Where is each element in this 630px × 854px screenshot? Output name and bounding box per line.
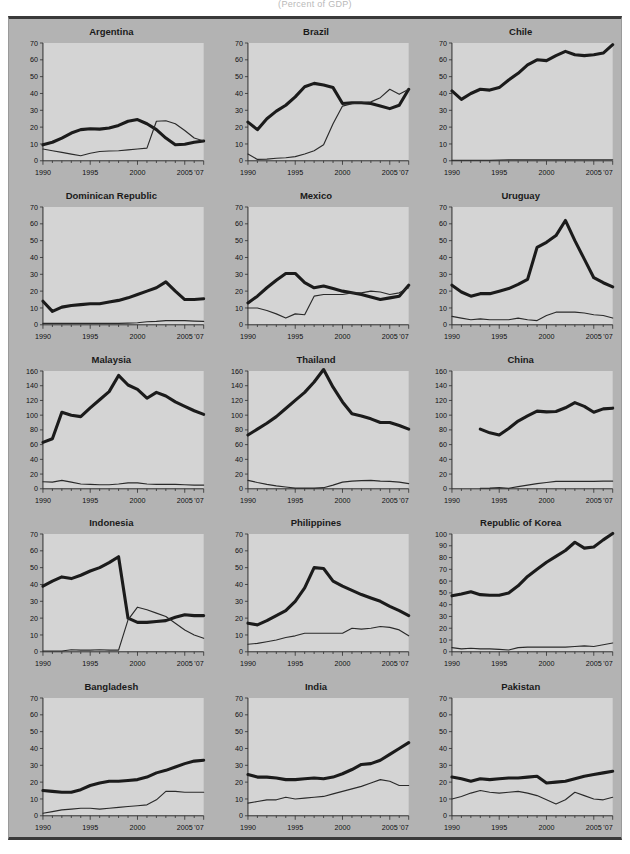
- y-tick-label: 60: [30, 711, 38, 719]
- panel-title: Thailand: [296, 353, 335, 367]
- y-tick-label: 0: [239, 649, 243, 657]
- x-tick-label: 2000: [539, 496, 555, 504]
- y-tick-label: 60: [30, 220, 38, 228]
- plot-area: 0102030405060701990199520002005'07: [418, 203, 623, 351]
- y-tick-label: 70: [30, 695, 38, 703]
- y-tick-label: 70: [439, 40, 447, 48]
- y-tick-label: 50: [30, 237, 38, 245]
- plot-area: 0102030405060701990199520002005'07: [214, 530, 419, 678]
- plot-area: 0102030405060701990199520002005'07: [9, 39, 214, 187]
- x-tick-label: 2005: [586, 824, 602, 832]
- y-tick-label: 0: [239, 157, 243, 165]
- y-tick-label: 100: [231, 411, 243, 419]
- plot-area: 0102030405060701990199520002005'07: [418, 39, 623, 187]
- x-tick-label: '07: [604, 824, 613, 832]
- x-tick-label: 2005: [381, 660, 397, 668]
- x-tick-label: 1990: [35, 660, 51, 668]
- panel-title: Brazil: [303, 25, 329, 39]
- y-tick-label: 0: [34, 485, 38, 493]
- y-tick-label: 80: [439, 554, 447, 562]
- figure-suptitle: (Percent of GDP): [0, 0, 630, 10]
- panel-title: Dominican Republic: [66, 189, 157, 203]
- y-tick-label: 10: [235, 141, 243, 149]
- y-tick-label: 140: [26, 382, 38, 390]
- y-tick-label: 60: [439, 56, 447, 64]
- plot-area: 0102030405060701990199520002005'07: [214, 203, 419, 351]
- figure-root: (Percent of GDP) Argentina01020304050607…: [0, 0, 630, 854]
- y-tick-label: 20: [439, 124, 447, 132]
- x-tick-label: 1995: [82, 169, 98, 177]
- x-tick-label: '07: [194, 333, 203, 341]
- y-tick-label: 0: [34, 321, 38, 329]
- y-tick-label: 50: [30, 728, 38, 736]
- y-tick-label: 0: [34, 649, 38, 657]
- y-tick-label: 10: [439, 141, 447, 149]
- plot-area: 0102030405060701990199520002005'07: [214, 39, 419, 187]
- x-tick-label: 1990: [444, 169, 460, 177]
- x-tick-label: '07: [399, 169, 408, 177]
- x-tick-label: 2000: [539, 824, 555, 832]
- plot-area: 01020304050607080901001990199520002005'0…: [418, 530, 623, 678]
- x-tick-label: 2000: [539, 169, 555, 177]
- panel-title: India: [305, 680, 327, 694]
- plot-background: [248, 207, 409, 325]
- chart-panel-brazil: Brazil0102030405060701990199520002005'07: [214, 23, 419, 187]
- x-tick-label: 2005: [177, 824, 193, 832]
- x-tick-label: 2005: [586, 333, 602, 341]
- plot-background: [43, 370, 204, 488]
- y-tick-label: 30: [439, 762, 447, 770]
- x-tick-label: '07: [194, 169, 203, 177]
- x-tick-label: '07: [194, 660, 203, 668]
- y-tick-label: 30: [30, 762, 38, 770]
- y-tick-label: 80: [439, 426, 447, 434]
- y-tick-label: 140: [231, 382, 243, 390]
- plot-background: [248, 370, 409, 488]
- y-tick-label: 50: [439, 590, 447, 598]
- y-tick-label: 50: [439, 73, 447, 81]
- y-tick-label: 30: [30, 598, 38, 606]
- chart-panel-malaysia: Malaysia02040608010012014016019901995200…: [9, 351, 214, 515]
- x-tick-label: 1990: [444, 660, 460, 668]
- y-tick-label: 0: [443, 812, 447, 820]
- y-tick-label: 60: [235, 441, 243, 449]
- x-tick-label: 2000: [130, 660, 146, 668]
- y-tick-label: 30: [30, 271, 38, 279]
- plot-background: [248, 43, 409, 161]
- x-tick-label: 1995: [287, 496, 303, 504]
- y-tick-label: 20: [235, 287, 243, 295]
- x-tick-label: '07: [604, 496, 613, 504]
- y-tick-label: 0: [239, 812, 243, 820]
- y-tick-label: 160: [231, 367, 243, 375]
- panel-title: Argentina: [89, 25, 133, 39]
- y-tick-label: 40: [30, 90, 38, 98]
- y-tick-label: 50: [235, 73, 243, 81]
- x-tick-label: 1995: [82, 333, 98, 341]
- y-tick-label: 10: [235, 632, 243, 640]
- y-tick-label: 60: [235, 56, 243, 64]
- y-tick-label: 40: [235, 254, 243, 262]
- y-tick-label: 30: [235, 598, 243, 606]
- y-tick-label: 20: [439, 779, 447, 787]
- y-tick-label: 30: [439, 271, 447, 279]
- y-tick-label: 100: [435, 531, 447, 539]
- y-tick-label: 40: [439, 745, 447, 753]
- y-tick-label: 80: [235, 426, 243, 434]
- y-tick-label: 70: [439, 695, 447, 703]
- x-tick-label: 2005: [381, 333, 397, 341]
- y-tick-label: 20: [30, 615, 38, 623]
- y-tick-label: 20: [235, 470, 243, 478]
- y-tick-label: 20: [439, 470, 447, 478]
- x-tick-label: 1990: [444, 824, 460, 832]
- panel-title: Philippines: [291, 516, 342, 530]
- y-tick-label: 60: [235, 711, 243, 719]
- x-tick-label: 1990: [240, 660, 256, 668]
- y-tick-label: 70: [235, 203, 243, 211]
- plot-area: 0204060801001201401601990199520002005'07: [9, 367, 214, 515]
- y-tick-label: 50: [439, 728, 447, 736]
- y-tick-label: 160: [26, 367, 38, 375]
- chart-panel-india: India0102030405060701990199520002005'07: [214, 678, 419, 842]
- x-tick-label: 1995: [492, 824, 508, 832]
- x-tick-label: 1990: [240, 824, 256, 832]
- x-tick-label: 2000: [334, 660, 350, 668]
- figure-panel-background: Argentina0102030405060701990199520002005…: [8, 16, 622, 840]
